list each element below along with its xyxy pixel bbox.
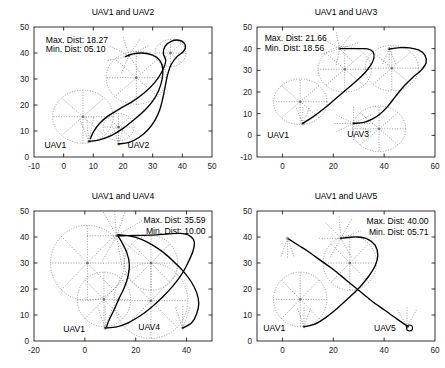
sensor-spoke bbox=[85, 280, 104, 299]
distance-annotation: Min. Dist: 05.10 bbox=[46, 44, 106, 54]
x-tick-label: 20 bbox=[329, 346, 339, 355]
x-tick-label: 40 bbox=[182, 346, 192, 355]
sensor-spoke bbox=[87, 236, 113, 263]
sensor-spoke bbox=[160, 43, 171, 53]
sensor-spoke bbox=[119, 127, 130, 137]
sensor-spoke bbox=[326, 53, 345, 69]
x-tick-label: 10 bbox=[89, 162, 99, 171]
y-tick-label: 40 bbox=[20, 49, 30, 58]
sensor-spoke bbox=[330, 238, 341, 257]
x-tick-label: 60 bbox=[430, 162, 440, 171]
x-tick-label: 0 bbox=[280, 346, 285, 355]
distance-annotation: Min. Dist: 10.00 bbox=[146, 226, 206, 236]
plot-canvas: UAV1 and UAV2-100102030405001020304050Ma… bbox=[0, 0, 222, 184]
sensor-spoke bbox=[339, 216, 341, 238]
uav-label: UAV1 bbox=[44, 140, 66, 150]
sensor-spoke bbox=[125, 274, 151, 301]
panel-title: UAV1 and UAV5 bbox=[315, 191, 378, 201]
y-tick-label: 20 bbox=[243, 285, 253, 294]
sensor-spoke bbox=[296, 107, 303, 123]
sensor-spoke bbox=[326, 69, 345, 85]
sensor-spoke bbox=[132, 244, 151, 263]
sensor-spoke bbox=[336, 115, 354, 124]
sensor-spoke bbox=[136, 78, 157, 97]
sensor-spoke bbox=[97, 306, 105, 328]
sensor-spoke bbox=[101, 236, 116, 263]
subplot-uav1-uav2: UAV1 and UAV2-100102030405001020304050Ma… bbox=[0, 0, 222, 184]
uav-trajectory-path bbox=[89, 53, 163, 141]
distance-annotation: Min. Dist: 05.71 bbox=[369, 227, 429, 237]
sensor-spoke bbox=[105, 306, 113, 328]
sensor-spoke bbox=[281, 280, 300, 299]
y-tick-label: 10 bbox=[20, 127, 30, 136]
sensor-spoke bbox=[151, 274, 177, 301]
sensor-spoke bbox=[104, 299, 123, 318]
sensor-spoke bbox=[392, 52, 411, 68]
subplot-uav1-uav4: UAV1 and UAV4-200204001020304050Max. Dis… bbox=[0, 184, 222, 368]
sensor-spoke bbox=[336, 49, 340, 66]
sensor-spoke bbox=[341, 238, 352, 257]
subplot-uav1-uav3: UAV1 and UAV30204060-1001020304050Max. D… bbox=[223, 0, 445, 184]
sensor-spoke bbox=[345, 53, 364, 69]
sensor-spoke bbox=[373, 68, 392, 84]
x-tick-label: 0 bbox=[280, 162, 285, 171]
y-tick-label: 10 bbox=[243, 311, 253, 320]
uav-label: UAV1 bbox=[267, 130, 289, 140]
y-tick-label: 50 bbox=[20, 207, 30, 216]
uav-trajectory-path bbox=[107, 235, 199, 328]
uav-trajectory-path bbox=[354, 47, 427, 123]
uav-label: UAV4 bbox=[138, 322, 160, 332]
uav-label: UAV5 bbox=[374, 323, 396, 333]
sensor-spoke bbox=[331, 244, 350, 263]
sensor-spoke bbox=[382, 49, 389, 65]
sensor-spoke bbox=[119, 118, 130, 128]
y-tick-label: 50 bbox=[20, 23, 30, 32]
sensor-spoke bbox=[300, 86, 319, 102]
y-tick-label: -10 bbox=[240, 153, 252, 162]
x-tick-label: 60 bbox=[430, 346, 440, 355]
y-tick-label: 50 bbox=[243, 23, 253, 32]
sensor-spoke bbox=[281, 86, 300, 102]
sensor-spoke bbox=[108, 118, 119, 128]
sensor-spoke bbox=[326, 223, 341, 239]
sensor-spoke bbox=[175, 306, 183, 328]
plot-canvas: UAV1 and UAV5020406001020304050Max. Dist… bbox=[223, 184, 445, 368]
x-tick-label: 0 bbox=[83, 346, 88, 355]
sensor-spoke bbox=[83, 98, 104, 117]
sensor-spoke bbox=[340, 49, 353, 62]
sensor-spoke bbox=[129, 56, 140, 73]
sensor-spoke bbox=[336, 32, 340, 49]
y-tick-label: 30 bbox=[243, 259, 253, 268]
sensor-spoke bbox=[350, 244, 369, 263]
y-tick-label: 20 bbox=[20, 101, 30, 110]
sensor-spoke bbox=[87, 263, 113, 290]
x-tick-label: 40 bbox=[380, 346, 390, 355]
plot-canvas: UAV1 and UAV4-200204001020304050Max. Dis… bbox=[0, 184, 222, 368]
x-tick-label: 20 bbox=[118, 162, 128, 171]
uav-label: UAV2 bbox=[127, 140, 149, 150]
sensor-spoke bbox=[61, 236, 87, 263]
y-tick-label: 0 bbox=[247, 131, 252, 140]
sensor-spoke bbox=[304, 308, 311, 326]
x-tick-label: -20 bbox=[28, 346, 40, 355]
uav-trajectory-path bbox=[105, 233, 194, 328]
plot-canvas: UAV1 and UAV30204060-1001020304050Max. D… bbox=[223, 0, 445, 184]
sensor-spoke bbox=[170, 43, 181, 53]
distance-annotation: Max. Dist: 40.00 bbox=[367, 216, 429, 226]
sensor-spoke bbox=[61, 263, 87, 290]
y-tick-label: 10 bbox=[20, 311, 30, 320]
sensor-spoke bbox=[151, 244, 170, 263]
x-tick-label: 0 bbox=[61, 162, 66, 171]
y-tick-label: 20 bbox=[20, 285, 30, 294]
sensor-spoke bbox=[79, 118, 89, 141]
sensor-spoke bbox=[298, 308, 305, 326]
y-tick-label: 40 bbox=[243, 233, 253, 242]
y-tick-label: 20 bbox=[243, 88, 253, 97]
sensor-spoke bbox=[115, 78, 136, 97]
y-tick-label: 10 bbox=[243, 110, 253, 119]
uav-label: UAV3 bbox=[347, 129, 369, 139]
uav-trajectory-path bbox=[90, 40, 185, 144]
sensor-spoke bbox=[331, 263, 350, 282]
panel-title: UAV1 and UAV3 bbox=[315, 7, 378, 17]
sensor-spoke bbox=[379, 113, 398, 129]
